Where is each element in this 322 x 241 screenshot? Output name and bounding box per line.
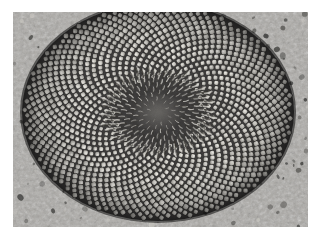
film-grain-overlay <box>13 12 308 227</box>
photo-content <box>13 12 308 227</box>
sunflower-photo-canvas <box>13 12 308 227</box>
sunflower-photograph <box>13 12 308 227</box>
page-root: Sunflower capitulum seed head Fibonacci … <box>0 0 322 241</box>
